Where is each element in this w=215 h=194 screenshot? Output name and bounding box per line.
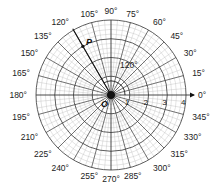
angle-label-75: 75°	[126, 9, 139, 19]
radius-label-2: 2	[144, 98, 149, 107]
angle-label-210: 210°	[21, 132, 39, 142]
angle-label-180: 180°	[9, 90, 27, 100]
angle-label-30: 30°	[184, 48, 197, 58]
angle-label-60: 60°	[153, 17, 166, 27]
angle-label-150: 150°	[21, 48, 39, 58]
minor-radial	[129, 101, 182, 120]
angle-label-45: 45°	[170, 31, 183, 41]
radial-165	[39, 76, 111, 95]
minor-radial	[117, 113, 136, 166]
radius-label-1: 1	[125, 98, 130, 107]
angle-label-345: 345°	[192, 112, 210, 122]
angle-label-330: 330°	[184, 132, 202, 142]
minor-radial	[41, 101, 94, 120]
angle-label-195: 195°	[12, 112, 30, 122]
angle-label-300: 300°	[153, 163, 171, 173]
angle-label-0: 0°	[198, 90, 206, 100]
point-p-label: P	[86, 37, 93, 47]
radial-105	[92, 23, 111, 95]
origin-label: O	[101, 99, 108, 109]
angle-label-270: 270°	[102, 174, 120, 184]
point-p	[81, 45, 84, 48]
radial-75	[111, 23, 130, 95]
angle-label-165: 165°	[12, 68, 30, 78]
angle-label-15: 15°	[192, 68, 205, 78]
minor-radial	[129, 69, 182, 88]
angle-label-255: 255°	[80, 171, 98, 181]
angle-label-120: 120°	[51, 17, 69, 27]
polar-coordinate-diagram: 0°15°30°45°60°75°90°105°120°135°150°165°…	[0, 0, 215, 194]
minor-radial	[85, 113, 104, 166]
angle-label-135: 135°	[34, 31, 52, 41]
angle-label-105: 105°	[80, 9, 98, 19]
angle-annotation: 120°	[120, 60, 138, 70]
angle-label-285: 285°	[124, 171, 142, 181]
minor-radial	[85, 25, 104, 78]
angle-label-90: 90°	[105, 6, 118, 16]
angle-label-315: 315°	[170, 149, 188, 159]
radius-label-4: 4	[181, 98, 186, 107]
radial-15	[111, 76, 183, 95]
minor-radial	[41, 69, 94, 88]
radius-label-3: 3	[162, 98, 167, 107]
angle-label-240: 240°	[51, 163, 69, 173]
axis-arrow-icon	[190, 93, 195, 98]
angle-label-225: 225°	[34, 149, 52, 159]
